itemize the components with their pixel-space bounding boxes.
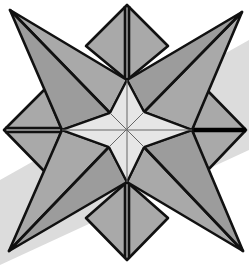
origami-star-diagram [0,0,249,265]
